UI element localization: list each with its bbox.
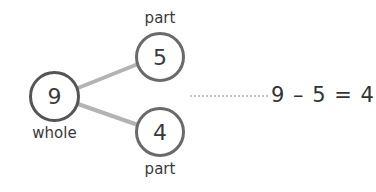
top-part-value: 5 xyxy=(153,45,167,70)
bottom-part-circle: 4 xyxy=(135,107,185,157)
dotted-leader-line xyxy=(190,95,268,97)
whole-value: 9 xyxy=(48,84,62,109)
whole-circle: 9 xyxy=(29,71,80,122)
top-part-circle: 5 xyxy=(135,32,185,82)
whole-label: whole xyxy=(29,124,80,142)
bottom-part-value: 4 xyxy=(153,120,167,145)
connector-whole-to-bottom-part xyxy=(78,104,138,125)
subtraction-equation: 9 – 5 = 4 xyxy=(271,83,375,107)
top-part-label: part xyxy=(135,9,185,27)
connector-whole-to-top-part xyxy=(78,64,138,88)
bottom-part-label: part xyxy=(135,160,185,178)
